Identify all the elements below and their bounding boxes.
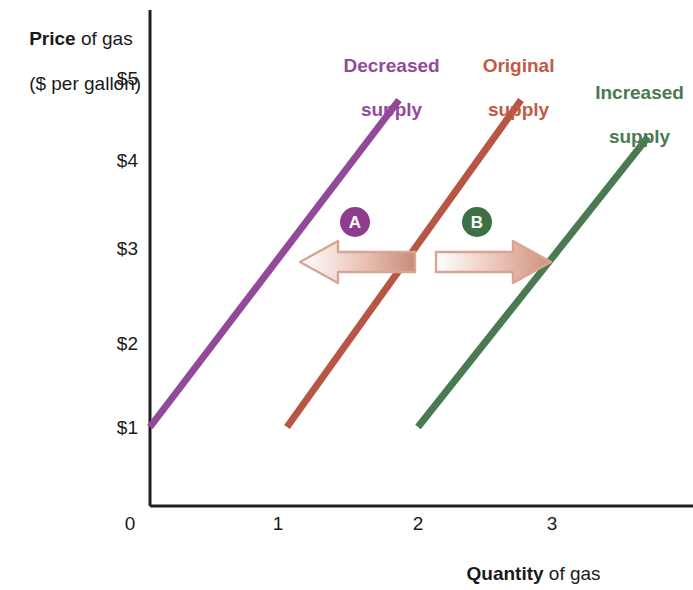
curve-label-increased-line1: Increased (595, 82, 684, 103)
y-tick-label-3: $3 (78, 238, 138, 260)
y-axis-title: Price of gas ($ per gallon) (8, 6, 144, 118)
curve-label-decreased-line1: Decreased (344, 55, 440, 76)
curve-label-original-line2: supply (488, 99, 549, 120)
curve-label-decreased-line2: supply (361, 99, 422, 120)
x-axis-title: Quantity of gas (billions of gallons per… (353, 541, 693, 590)
x-tick-label-0: 0 (110, 513, 150, 535)
x-tick-label-2: 2 (398, 513, 438, 535)
badge-b: B (462, 207, 492, 237)
curve-label-decreased-supply: Decreased supply (316, 33, 446, 143)
x-axis-title-rest: of gas (544, 563, 601, 584)
y-tick-label-1: $1 (78, 417, 138, 439)
curve-increased-supply (418, 137, 648, 427)
x-tick-label-3: 3 (532, 513, 572, 535)
supply-shift-chart: A B Price of gas ($ per gallon) $5 $4 $3… (0, 0, 693, 590)
y-tick-label-2: $2 (78, 333, 138, 355)
y-tick-label-4: $4 (78, 150, 138, 172)
y-axis-title-strong: Price (29, 28, 75, 49)
x-axis-title-strong: Quantity (467, 563, 544, 584)
y-tick-label-5: $5 (78, 68, 138, 90)
curve-label-increased-line2: supply (609, 126, 670, 147)
badge-a: A (340, 207, 370, 237)
curve-label-original-line1: Original (483, 55, 555, 76)
curve-label-increased-supply: Increased supply (566, 60, 692, 170)
x-tick-label-1: 1 (258, 513, 298, 535)
badge-a-letter: A (349, 213, 361, 232)
curve-label-original-supply: Original supply (453, 33, 563, 143)
badge-b-letter: B (471, 213, 483, 232)
y-axis-title-rest: of gas (76, 28, 133, 49)
